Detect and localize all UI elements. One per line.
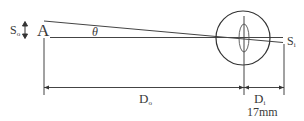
top-ray [44,21,283,43]
image-size-letter: S [287,34,294,48]
object-letter: A [37,22,49,39]
object-size-sub: o [17,30,21,38]
image-size-sub: i [294,41,296,49]
image-size-label: Si [287,35,296,49]
object-distance-label: Do [139,92,152,107]
image-distance-letter: D [254,91,263,106]
angle-label: θ [92,26,98,38]
object-distance-letter: D [139,91,148,106]
object-size-arrow [23,22,28,39]
object-size-label: So [10,24,20,38]
object-size-letter: S [10,23,17,37]
image-distance-value: 17mm [247,106,278,118]
object-distance-sub: o [148,99,152,107]
